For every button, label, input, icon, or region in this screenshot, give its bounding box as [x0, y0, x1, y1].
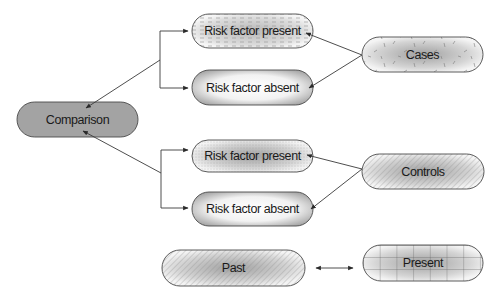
node-past-label: Past	[222, 261, 246, 275]
node-past: Past	[162, 250, 305, 286]
node-controls-label: Controls	[401, 165, 444, 179]
node-cases-risk-absent: Risk factor absent	[192, 70, 313, 105]
node-cases-risk-present-label: Risk factor present	[204, 24, 302, 38]
node-controls-risk-present-label: Risk factor present	[204, 149, 302, 163]
node-comparison-label: Comparison	[46, 113, 110, 127]
node-comparison: Comparison	[17, 102, 138, 137]
case-control-diagram: Comparison Risk factor present Risk fact…	[0, 0, 502, 301]
node-cases-label: Cases	[406, 48, 440, 62]
node-cases: Cases	[362, 37, 483, 72]
node-present-label: Present	[403, 256, 444, 270]
node-controls-risk-absent: Risk factor absent	[192, 192, 313, 226]
node-present: Present	[363, 245, 483, 281]
node-controls-risk-present: Risk factor present	[192, 140, 313, 172]
bracket-cases	[86, 31, 188, 108]
bracket-controls	[83, 131, 188, 208]
node-controls: Controls	[362, 154, 484, 189]
edges-cases	[306, 33, 362, 88]
node-cases-risk-absent-label: Risk factor absent	[206, 81, 300, 95]
edges-controls	[307, 155, 362, 209]
node-controls-risk-absent-label: Risk factor absent	[206, 202, 300, 216]
node-cases-risk-present: Risk factor present	[192, 14, 313, 48]
